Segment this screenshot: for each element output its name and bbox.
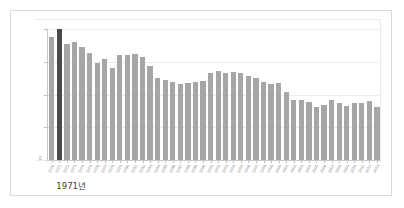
bar-slot[interactable] <box>252 29 260 160</box>
chart-screenshot: 1,073,918805,439536,959268,480 0 1970197… <box>0 0 404 208</box>
bar-slot[interactable] <box>109 29 117 160</box>
bar-slot[interactable] <box>267 29 275 160</box>
bar[interactable] <box>193 82 198 160</box>
bar[interactable] <box>374 107 379 160</box>
bar-slot[interactable] <box>305 29 313 160</box>
x-tick-mark <box>52 161 53 163</box>
bar[interactable] <box>321 105 326 160</box>
bar[interactable] <box>110 68 115 160</box>
bar-slot[interactable] <box>139 29 147 160</box>
bar[interactable] <box>367 101 372 160</box>
y-tick-mark <box>44 95 47 96</box>
bar-highlighted[interactable] <box>57 29 62 160</box>
bar[interactable] <box>170 82 175 160</box>
bar[interactable] <box>231 72 236 160</box>
bar[interactable] <box>306 102 311 160</box>
bar[interactable] <box>200 81 205 160</box>
bar-slot[interactable] <box>366 29 374 160</box>
x-tick-mark <box>271 161 272 163</box>
bar[interactable] <box>49 37 54 160</box>
bar[interactable] <box>117 55 122 160</box>
bar-slot[interactable] <box>245 29 253 160</box>
bar-slot[interactable] <box>192 29 200 160</box>
x-tick-mark <box>218 161 219 163</box>
bar-slot[interactable] <box>207 29 215 160</box>
bar-slot[interactable] <box>237 29 245 160</box>
bar-slot[interactable] <box>351 29 359 160</box>
bar[interactable] <box>268 84 273 160</box>
bar-series <box>48 29 381 160</box>
bar-slot[interactable] <box>184 29 192 160</box>
bar[interactable] <box>64 44 69 160</box>
bar-slot[interactable] <box>93 29 101 160</box>
bar[interactable] <box>79 47 84 160</box>
bar[interactable] <box>246 76 251 160</box>
bar-slot[interactable] <box>86 29 94 160</box>
bar-slot[interactable] <box>313 29 321 160</box>
bar[interactable] <box>314 107 319 160</box>
bar-slot[interactable] <box>199 29 207 160</box>
x-tick-mark <box>203 161 204 163</box>
bar-slot[interactable] <box>101 29 109 160</box>
bar-slot[interactable] <box>161 29 169 160</box>
bar[interactable] <box>216 71 221 160</box>
bar[interactable] <box>344 106 349 160</box>
x-tick-mark <box>347 161 348 163</box>
bar-slot[interactable] <box>328 29 336 160</box>
bar-slot[interactable] <box>154 29 162 160</box>
bar[interactable] <box>329 100 334 160</box>
bar-slot[interactable] <box>290 29 298 160</box>
bar[interactable] <box>359 103 364 160</box>
x-tick-mark <box>301 161 302 163</box>
bar-slot[interactable] <box>222 29 230 160</box>
bar[interactable] <box>140 57 145 160</box>
bar-slot[interactable] <box>63 29 71 160</box>
bar[interactable] <box>238 73 243 160</box>
bar-slot[interactable] <box>358 29 366 160</box>
bar-slot[interactable] <box>335 29 343 160</box>
bar[interactable] <box>102 59 107 160</box>
bar[interactable] <box>87 53 92 160</box>
bar-slot[interactable] <box>71 29 79 160</box>
bar-slot[interactable] <box>320 29 328 160</box>
bar[interactable] <box>125 55 130 160</box>
y-tick-mark <box>44 29 47 30</box>
bar[interactable] <box>352 103 357 160</box>
bar-slot[interactable] <box>343 29 351 160</box>
bar-slot[interactable] <box>146 29 154 160</box>
bar-slot[interactable] <box>282 29 290 160</box>
bar-slot[interactable] <box>373 29 381 160</box>
bar[interactable] <box>208 73 213 160</box>
bar[interactable] <box>147 66 152 160</box>
bar-slot[interactable] <box>169 29 177 160</box>
bar[interactable] <box>276 83 281 160</box>
bar-slot[interactable] <box>275 29 283 160</box>
x-tick-mark <box>294 161 295 163</box>
bar[interactable] <box>284 92 289 160</box>
bar-slot[interactable] <box>48 29 56 160</box>
bar-slot[interactable] <box>177 29 185 160</box>
bar-slot[interactable] <box>56 29 64 160</box>
bar[interactable] <box>155 78 160 160</box>
x-tick-mark <box>324 161 325 163</box>
bar-slot[interactable] <box>260 29 268 160</box>
bar-slot[interactable] <box>78 29 86 160</box>
bar-slot[interactable] <box>214 29 222 160</box>
bar[interactable] <box>223 73 228 160</box>
bar[interactable] <box>95 63 100 160</box>
bar-slot[interactable] <box>116 29 124 160</box>
bar[interactable] <box>261 82 266 160</box>
bar[interactable] <box>337 103 342 160</box>
bar[interactable] <box>178 84 183 160</box>
bar[interactable] <box>291 100 296 160</box>
bar[interactable] <box>299 100 304 160</box>
bar[interactable] <box>253 78 258 160</box>
bar-slot[interactable] <box>230 29 238 160</box>
bar-slot[interactable] <box>298 29 306 160</box>
bar[interactable] <box>163 80 168 160</box>
bar[interactable] <box>132 54 137 160</box>
bar-slot[interactable] <box>124 29 132 160</box>
bar[interactable] <box>72 42 77 160</box>
bar[interactable] <box>185 83 190 160</box>
bar-slot[interactable] <box>131 29 139 160</box>
